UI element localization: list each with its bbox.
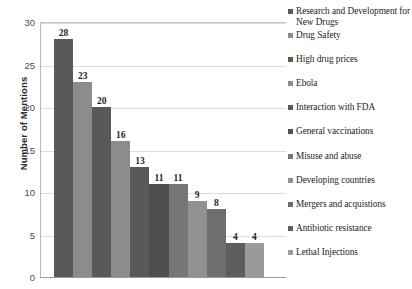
- bar-value-label: 28: [54, 28, 73, 38]
- bar-column[interactable]: 11: [149, 23, 168, 277]
- legend-item[interactable]: Research and Development for New Drugs: [288, 6, 412, 30]
- bar[interactable]: [73, 82, 92, 278]
- bar-value-label: 9: [188, 190, 207, 200]
- bar-column[interactable]: 8: [207, 23, 226, 277]
- legend-item[interactable]: Ebola: [288, 78, 412, 102]
- bar-value-label: 16: [111, 130, 130, 140]
- bar-chart-figure: Number of Mentions 302520151050 28232016…: [0, 0, 412, 289]
- y-tick-label: 20: [0, 102, 40, 113]
- legend-label: High drug prices: [296, 54, 358, 65]
- legend-swatch-icon: [288, 81, 293, 86]
- bar[interactable]: [130, 167, 149, 278]
- legend-swatch-icon: [288, 129, 293, 134]
- bar-series: 282320161311119844: [54, 23, 264, 277]
- bar-value-label: 20: [92, 96, 111, 106]
- bar[interactable]: [169, 184, 188, 278]
- bar[interactable]: [92, 107, 111, 277]
- bar-value-label: 13: [130, 156, 149, 166]
- legend-item[interactable]: General vaccinations: [288, 126, 412, 150]
- y-tick-label: 15: [0, 144, 40, 155]
- legend-item[interactable]: Antibiotic resistance: [288, 223, 412, 247]
- bar[interactable]: [54, 39, 73, 277]
- bar-column[interactable]: 4: [226, 23, 245, 277]
- legend-swatch-icon: [288, 154, 293, 159]
- bar[interactable]: [245, 243, 264, 277]
- legend-label: General vaccinations: [296, 126, 373, 137]
- x-axis-line: [40, 277, 286, 278]
- y-tick-label: 30: [0, 17, 40, 28]
- legend-item[interactable]: Drug Safety: [288, 30, 412, 54]
- bar-value-label: 23: [73, 71, 92, 81]
- y-tick-label: 10: [0, 187, 40, 198]
- legend-label: Drug Safety: [296, 30, 341, 41]
- bar-value-label: 4: [226, 232, 245, 242]
- legend-label: Mergers and acquistions: [296, 199, 386, 210]
- legend-item[interactable]: High drug prices: [288, 54, 412, 78]
- bar-value-label: 8: [207, 198, 226, 208]
- y-tick-label: 25: [0, 59, 40, 70]
- bar-column[interactable]: 13: [130, 23, 149, 277]
- y-tick-label: 0: [0, 272, 40, 283]
- legend-label: Antibiotic resistance: [296, 223, 372, 234]
- legend-swatch-icon: [288, 57, 293, 62]
- legend-label: Misuse and abuse: [296, 151, 361, 162]
- legend-label: Interaction with FDA: [296, 102, 375, 113]
- bar-column[interactable]: 16: [111, 23, 130, 277]
- legend-swatch-icon: [288, 178, 293, 183]
- legend-item[interactable]: Lethal Injections: [288, 247, 412, 271]
- legend-label: Developing countries: [296, 175, 375, 186]
- bar[interactable]: [188, 201, 207, 278]
- bar[interactable]: [207, 209, 226, 277]
- bar[interactable]: [111, 141, 130, 277]
- legend-item[interactable]: Interaction with FDA: [288, 102, 412, 126]
- legend-swatch-icon: [288, 226, 293, 231]
- plot-area: 282320161311119844: [40, 22, 286, 277]
- bar-value-label: 4: [245, 232, 264, 242]
- y-axis-tick-labels: 302520151050: [0, 0, 40, 289]
- bar-column[interactable]: 23: [73, 23, 92, 277]
- legend-label: Lethal Injections: [296, 247, 358, 258]
- legend: Research and Development for New DrugsDr…: [288, 6, 412, 289]
- bar-value-label: 11: [169, 173, 188, 183]
- legend-label: Ebola: [296, 78, 317, 89]
- bar-column[interactable]: 4: [245, 23, 264, 277]
- legend-item[interactable]: Developing countries: [288, 175, 412, 199]
- legend-label: Research and Development for New Drugs: [296, 6, 412, 27]
- y-tick-label: 5: [0, 229, 40, 240]
- bar-column[interactable]: 20: [92, 23, 111, 277]
- bar[interactable]: [149, 184, 168, 278]
- legend-item[interactable]: Misuse and abuse: [288, 151, 412, 175]
- legend-swatch-icon: [288, 33, 293, 38]
- legend-swatch-icon: [288, 9, 293, 14]
- bar[interactable]: [226, 243, 245, 277]
- bar-column[interactable]: 11: [169, 23, 188, 277]
- legend-swatch-icon: [288, 202, 293, 207]
- bar-column[interactable]: 28: [54, 23, 73, 277]
- legend-swatch-icon: [288, 105, 293, 110]
- bar-column[interactable]: 9: [188, 23, 207, 277]
- legend-swatch-icon: [288, 250, 293, 255]
- bar-value-label: 11: [149, 173, 168, 183]
- legend-item[interactable]: Mergers and acquistions: [288, 199, 412, 223]
